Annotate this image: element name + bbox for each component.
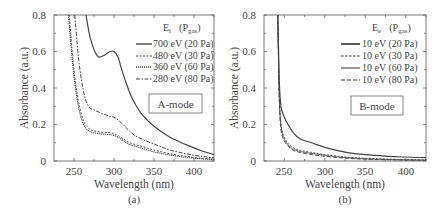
panel-label: (b) — [339, 193, 352, 206]
x-axis-title: Wavelength (nm) — [94, 178, 174, 191]
y-axis-title: Absorbance (a.u.) — [18, 47, 31, 129]
legend-a: Ei(Pgas) 700 eV (20 Pa) 480 eV (30 Pa) 3… — [136, 22, 214, 85]
xtick-label: 400 — [398, 165, 415, 177]
ytick-label: 0.6 — [32, 45, 46, 57]
legend-b: Ee(Pgas) 10 eV (20 Pa) 10 eV (30 Pa) 10 … — [341, 22, 418, 86]
legend-entry: 280 eV (80 Pa) — [153, 73, 214, 85]
legend-entry: 10 eV (20 Pa) — [362, 38, 418, 50]
series-line — [86, 15, 214, 155]
figure: 0 0.2 0.4 0.6 0.8 250 300 350 400 Wavele… — [0, 0, 445, 215]
xtick-label: 250 — [66, 165, 83, 177]
panel-a: 0 0.2 0.4 0.6 0.8 250 300 350 400 Wavele… — [18, 9, 214, 206]
ytick-label: 0.8 — [242, 9, 256, 21]
y-axis-title: Absorbance (a.u.) — [228, 47, 241, 129]
ytick-label: 0.4 — [242, 82, 256, 94]
plot-frame-b — [264, 15, 426, 161]
series-line — [278, 15, 426, 160]
ytick-label: 0.4 — [32, 82, 46, 94]
xtick-label: 300 — [106, 165, 123, 177]
series-line — [69, 15, 214, 159]
panel-b: 0 0.2 0.4 0.6 0.8 250 300 350 400 Wavele… — [228, 9, 426, 206]
mode-label: B-mode — [359, 100, 395, 112]
legend-entry: 360 eV (60 Pa) — [153, 61, 214, 73]
curves-a — [68, 15, 214, 160]
ytick-label: 0 — [251, 155, 257, 167]
series-line — [75, 15, 214, 158]
mode-label: A-mode — [157, 98, 193, 110]
legend-header: Ei(Pgas) — [163, 22, 201, 35]
ytick-label: 0.8 — [32, 9, 46, 21]
ticks-b — [264, 15, 426, 161]
legend-entry: 700 eV (20 Pa) — [153, 38, 214, 50]
ticks-a — [54, 15, 214, 161]
ytick-label: 0.6 — [242, 45, 256, 57]
legend-entry: 10 eV (60 Pa) — [362, 62, 418, 74]
legend-entry: 10 eV (80 Pa) — [362, 74, 418, 86]
ytick-label: 0.2 — [242, 118, 256, 130]
xtick-label: 250 — [276, 165, 293, 177]
xtick-label: 400 — [186, 165, 203, 177]
legend-entry: 10 eV (30 Pa) — [362, 50, 418, 62]
panel-label: (a) — [128, 193, 141, 206]
xtick-label: 300 — [317, 165, 334, 177]
xtick-label: 350 — [146, 165, 163, 177]
ytick-label: 0.2 — [32, 118, 46, 130]
plot-frame-a — [54, 15, 214, 161]
x-axis-title: Wavelength (nm) — [305, 178, 385, 191]
ytick-label: 0 — [41, 155, 47, 167]
legend-header: Ee(Pgas) — [372, 22, 411, 35]
curves-b — [278, 15, 426, 160]
series-line — [278, 15, 426, 158]
xtick-label: 350 — [357, 165, 374, 177]
